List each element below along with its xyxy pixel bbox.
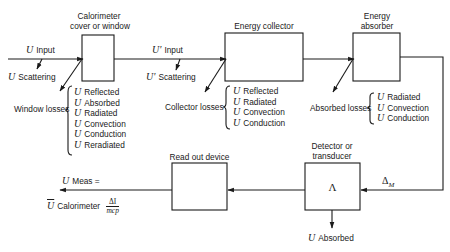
input-prime-text: Input: [164, 45, 182, 55]
window-block: [82, 35, 114, 81]
absorber-label-line1: Energy: [350, 11, 404, 21]
u-symbol: U: [62, 175, 69, 186]
window-losses-brace: [65, 86, 72, 155]
item-text: Reflected: [243, 86, 278, 96]
window-losses-list: UReflected UAbsorbed URadiated UConvecti…: [74, 87, 126, 151]
energy-collector-block: [225, 33, 303, 81]
u-bar-symbol: U: [47, 200, 54, 211]
collector-losses-list: UReflected URadiated UConvection UConduc…: [233, 86, 285, 128]
u-scattering-label: UScattering: [8, 72, 56, 82]
item-text: Radiated: [243, 97, 276, 107]
input-text: Input: [36, 45, 54, 55]
absorbed-text: Absorbed: [318, 233, 354, 243]
item-text: Reradiated: [84, 140, 125, 150]
window-block-label: Calorimeter cover or window: [70, 11, 128, 31]
u-prime-input-label: U'Input: [152, 45, 183, 55]
collector-loss-item: UConduction: [233, 118, 285, 129]
u-symbol: U: [308, 232, 315, 243]
calorimeter-text: Calorimeter: [57, 201, 100, 211]
u-calorimeter-label: UCalorimeter ΔI mcp: [47, 198, 119, 215]
absorbed-losses-label: Absorbed losses: [310, 103, 371, 113]
absorbed-losses-list: URadiated UConvection UConduction: [377, 92, 429, 124]
u-symbol: U: [377, 102, 384, 113]
delta-subscript: M: [388, 181, 394, 189]
absorbed-loss-item: UConduction: [377, 113, 429, 124]
item-text: Radiated: [387, 92, 420, 102]
u-symbol: U: [74, 139, 81, 150]
u-symbol: U: [26, 44, 33, 55]
fraction-denominator: mcp: [106, 207, 119, 215]
item-text: Convection: [84, 119, 126, 129]
u-prime-symbol: U': [152, 44, 161, 55]
item-text: Convection: [387, 103, 429, 113]
readout-block: [172, 163, 227, 210]
collector-loss-item: UConvection: [233, 107, 285, 118]
item-text: Conduction: [84, 129, 126, 139]
lambda-symbol: Λ: [305, 180, 360, 194]
absorbed-loss-item: URadiated: [377, 92, 429, 103]
window-label-line1: Calorimeter: [70, 11, 128, 21]
window-loss-item: URadiated: [74, 108, 126, 119]
collector-loss-item: URadiated: [233, 97, 285, 108]
u-prime-scattering-label: U'Scattering: [146, 72, 196, 82]
detector-label-line1: Detector or: [300, 141, 364, 151]
collector-block-label: Energy collector: [225, 21, 303, 31]
delta-m-label: ΔM: [382, 176, 394, 190]
collector-losses-brace: [223, 86, 230, 129]
u-symbol: U: [377, 91, 384, 102]
u-symbol: U: [74, 107, 81, 118]
u-symbol: U: [74, 128, 81, 139]
energy-absorber-block: [353, 33, 400, 81]
window-losses-label: Window losses: [14, 104, 69, 114]
u-symbol: U: [74, 86, 81, 97]
delta-i-over-mcp-fraction: ΔI mcp: [106, 198, 119, 215]
window-label-line2: cover or window: [70, 21, 128, 31]
item-text: Radiated: [84, 108, 117, 118]
u-symbol: U: [233, 96, 240, 107]
u-symbol: U: [74, 97, 81, 108]
absorbed-loss-item: UConvection: [377, 103, 429, 114]
u-symbol: U: [8, 71, 15, 82]
u-symbol: U: [377, 112, 384, 123]
scattering-prime-text: Scattering: [158, 72, 195, 82]
collector-losses-label: Collector losses: [165, 102, 224, 112]
window-loss-item: UReflected: [74, 87, 126, 98]
window-loss-item: UAbsorbed: [74, 98, 126, 109]
item-text: Convection: [243, 107, 285, 117]
item-text: Conduction: [243, 118, 285, 128]
u-symbol: U: [74, 118, 81, 129]
item-text: Reflected: [84, 87, 119, 97]
item-text: Conduction: [387, 113, 429, 123]
item-text: Absorbed: [84, 98, 120, 108]
u-meas-label: UMeas =: [62, 176, 100, 186]
detector-label-line2: transducer: [300, 151, 364, 161]
u-input-label: UInput: [26, 45, 55, 55]
u-symbol: U: [233, 117, 240, 128]
u-absorbed-label: UAbsorbed: [308, 233, 354, 243]
readout-block-label: Read out device: [162, 152, 237, 162]
absorber-label-line2: absorber: [350, 21, 404, 31]
window-loss-item: UReradiated: [74, 140, 126, 151]
calorimeter-block-diagram: Calorimeter cover or window Energy colle…: [0, 0, 450, 252]
detector-block-label: Detector or transducer: [300, 141, 364, 161]
u-symbol: U: [233, 106, 240, 117]
window-loss-item: UConvection: [74, 119, 126, 130]
u-symbol: U: [233, 85, 240, 96]
collector-loss-item: UReflected: [233, 86, 285, 97]
meas-text: Meas =: [72, 176, 99, 186]
absorber-block-label: Energy absorber: [350, 11, 404, 31]
window-loss-item: UConduction: [74, 129, 126, 140]
u-prime-symbol: U': [146, 71, 155, 82]
scattering-text: Scattering: [18, 72, 55, 82]
